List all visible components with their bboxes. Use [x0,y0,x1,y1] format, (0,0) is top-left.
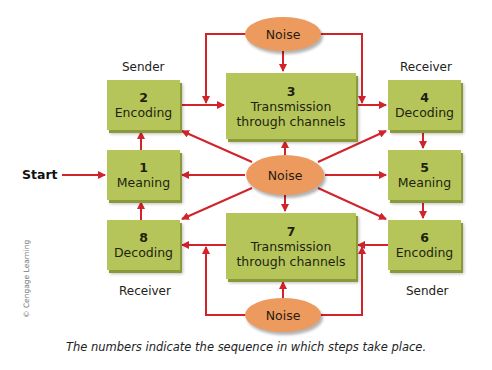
role-label-sender-top: Sender [122,60,165,74]
step-number: 2 [139,90,148,105]
step-2-encoding: 2 Encoding [107,80,180,130]
step-5-meaning: 5 Meaning [388,150,461,200]
role-label-receiver-bottom: Receiver [119,284,171,298]
step-7-transmission: 7 Transmission through channels [226,213,356,279]
step-label: Decoding [395,105,454,120]
role-label-receiver-top: Receiver [400,60,452,74]
step-number: 6 [420,230,429,245]
step-8-decoding: 8 Decoding [107,220,180,270]
noise-bottom: Noise [245,298,321,332]
step-number: 4 [420,90,429,105]
step-label: Transmission through channels [236,99,346,129]
step-6-encoding: 6 Encoding [388,220,461,270]
step-number: 5 [420,160,429,175]
step-number: 8 [139,230,148,245]
step-4-decoding: 4 Decoding [388,80,461,130]
step-number: 3 [287,84,296,99]
copyright-credit: © Cengage Learning [22,240,31,318]
step-3-transmission: 3 Transmission through channels [226,73,356,139]
step-label: Meaning [117,175,170,190]
noise-top: Noise [245,17,321,51]
communication-process-diagram: Sender Receiver Receiver Sender Start 1 … [0,0,492,370]
step-label: Encoding [396,245,454,260]
step-1-meaning: 1 Meaning [107,150,180,200]
step-number: 7 [287,224,296,239]
role-label-sender-bottom: Sender [406,284,449,298]
step-label: Meaning [398,175,451,190]
caption: The numbers indicate the sequence in whi… [0,340,492,354]
step-label: Transmission through channels [236,239,346,269]
step-number: 1 [139,160,148,175]
step-label: Encoding [115,105,173,120]
start-label: Start [22,167,58,182]
step-label: Decoding [114,245,173,260]
noise-center: Noise [246,155,324,195]
